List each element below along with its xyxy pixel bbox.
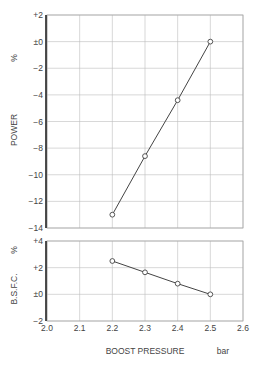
y-tick-label: −10 (29, 170, 44, 180)
y-tick-label: −14 (29, 223, 44, 233)
y-tick-label: −8 (33, 143, 43, 153)
x-tick-label: 2.5 (204, 323, 216, 333)
bsfc-axis-label: B.S.F.C. (9, 273, 19, 304)
data-point-marker (143, 270, 148, 275)
power-unit-label: % (9, 54, 19, 62)
x-tick-label: 2.1 (74, 323, 86, 333)
series-line (112, 261, 210, 294)
x-tick-label: 2.0 (41, 323, 53, 333)
power-plot: +2±0−2−4−6−8−10−12−14 (29, 10, 243, 233)
boost-pressure-chart: +2±0−2−4−6−8−10−12−14 +4+2±0−22.02.12.22… (0, 0, 255, 366)
data-point-marker (110, 212, 115, 217)
y-tick-label: −2 (33, 63, 43, 73)
x-tick-label: 2.6 (237, 323, 249, 333)
data-point-marker (208, 292, 213, 297)
y-tick-label: −12 (29, 196, 44, 206)
y-tick-label: −6 (33, 117, 43, 127)
bsfc-unit-label: % (9, 246, 19, 254)
x-tick-label: 2.2 (106, 323, 118, 333)
power-axis-label: POWER (9, 114, 19, 146)
x-tick-label: 2.3 (139, 323, 151, 333)
y-tick-label: ±0 (34, 289, 44, 299)
y-tick-label: +2 (33, 263, 43, 273)
data-point-marker (143, 154, 148, 159)
data-point-marker (175, 281, 180, 286)
bsfc-plot: +4+2±0−22.02.12.22.32.42.52.6 (33, 236, 249, 333)
series-line (112, 42, 210, 215)
x-tick-label: 2.4 (172, 323, 184, 333)
data-point-marker (110, 259, 115, 264)
data-point-marker (175, 98, 180, 103)
data-point-marker (208, 39, 213, 44)
x-axis-unit: bar (217, 346, 229, 356)
y-tick-label: −4 (33, 90, 43, 100)
x-axis-label: BOOST PRESSURE (106, 346, 185, 356)
y-tick-label: +2 (33, 10, 43, 20)
y-tick-label: +4 (33, 236, 43, 246)
y-tick-label: ±0 (34, 37, 44, 47)
